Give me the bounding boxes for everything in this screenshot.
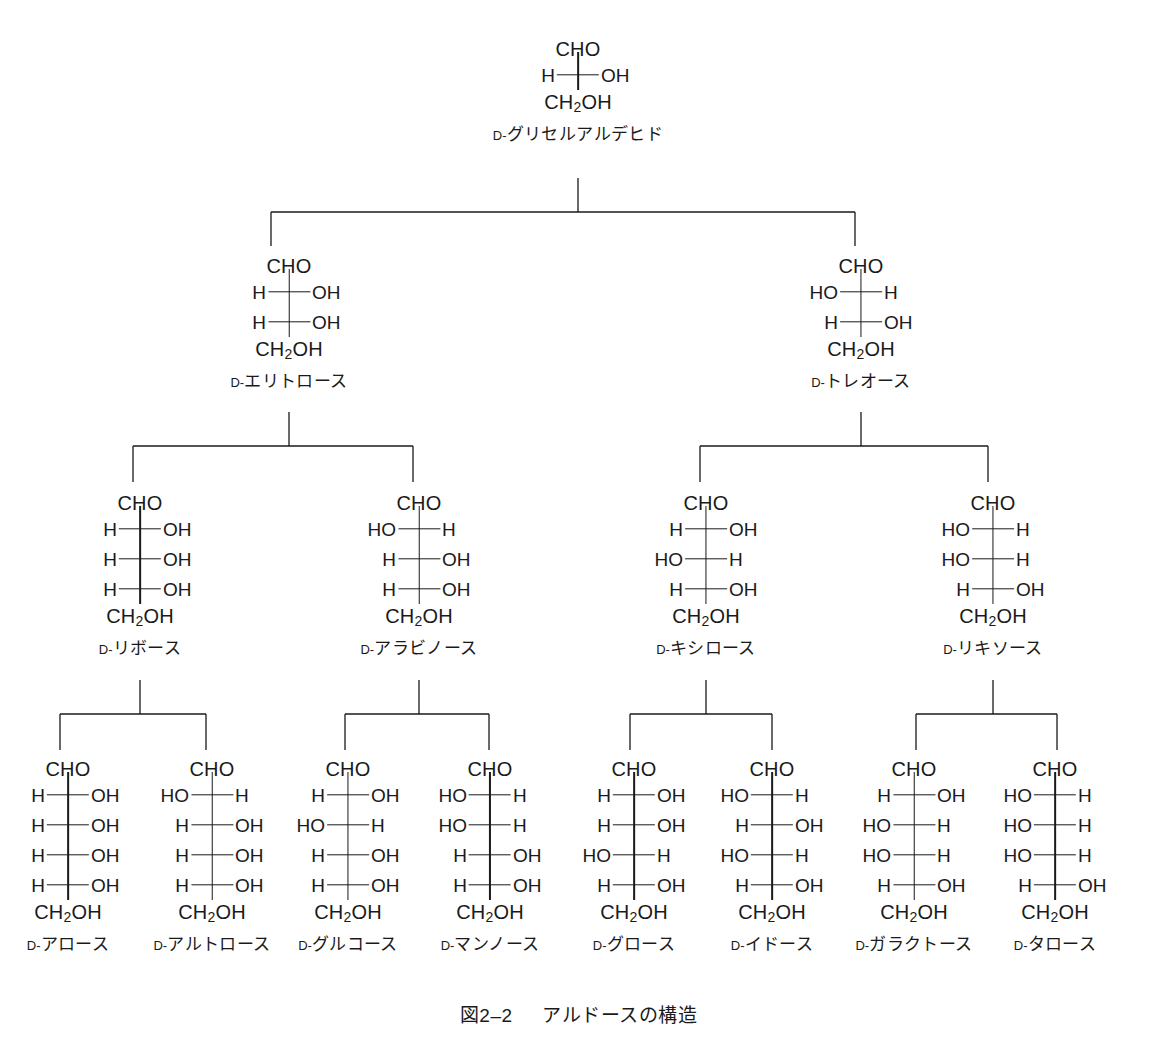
stereocenter-list: HOHHOHHOH xyxy=(384,514,454,604)
substituent-left-hydroxyl: HO xyxy=(719,846,752,865)
substituent-left-hydrogen: H xyxy=(1016,876,1034,895)
substituent-left-hydrogen: H xyxy=(875,786,893,805)
ch-text: CH xyxy=(672,605,701,627)
subscript-two: 2 xyxy=(414,613,422,629)
ch-text: CH xyxy=(34,901,63,923)
stereocenter-list: HOH xyxy=(543,60,613,90)
sugar-name-text: アルトロース xyxy=(167,935,270,954)
carbon-backbone-line xyxy=(211,772,212,908)
oh-text: OH xyxy=(292,338,322,360)
primary-alcohol-group-label: CH2OH xyxy=(254,337,324,366)
sugar-name-text: グリセルアルデヒド xyxy=(507,125,664,144)
molecule-talose: CHOHOHHOHHOHHOHCH2OHD-タロース xyxy=(1014,758,1096,956)
substituent-right-hydroxyl: OH xyxy=(935,786,968,805)
stereocenter-list: HOHHOHHOHHOH xyxy=(33,780,103,900)
substituent-right-hydrogen: H xyxy=(1014,520,1032,539)
configuration-prefix: D- xyxy=(855,938,869,953)
molecule-threose: CHOHOHHOHCH2OHD-トレオース xyxy=(811,255,911,393)
substituent-right-hydrogen: H xyxy=(233,786,251,805)
primary-alcohol-group-label: CH2OH xyxy=(177,900,247,929)
substituent-left-hydroxyl: HO xyxy=(1002,846,1035,865)
stereocenter-list: HOHHOHHOHHOH xyxy=(455,780,525,900)
substituent-right-hydrogen: H xyxy=(793,786,811,805)
ch-text: CH xyxy=(178,901,207,923)
primary-alcohol-group-label: CH2OH xyxy=(313,900,383,929)
substituent-left-hydrogen: H xyxy=(309,846,327,865)
substituent-left-hydroxyl: HO xyxy=(861,816,894,835)
substituent-right-hydrogen: H xyxy=(935,816,953,835)
substituent-left-hydrogen: H xyxy=(451,876,469,895)
ch-text: CH xyxy=(959,605,988,627)
substituent-right-hydroxyl: OH xyxy=(599,66,632,85)
substituent-right-hydroxyl: OH xyxy=(233,846,266,865)
fischer-projection: CHOHOHHOHHOHCH2OH xyxy=(384,492,454,633)
caption-number: 図2–2 xyxy=(460,1005,513,1026)
molecule-altrose: CHOHOHHOHHOHHOHCH2OHD-アルトロース xyxy=(153,758,270,956)
ch-text: CH xyxy=(106,605,135,627)
substituent-left-hydrogen: H xyxy=(954,580,972,599)
carbon-backbone-line xyxy=(1054,772,1055,908)
substituent-right-hydrogen: H xyxy=(882,283,900,302)
substituent-right-hydroxyl: OH xyxy=(440,580,473,599)
fischer-projection: CHOHOHHOHHOHHOHCH2OH xyxy=(177,758,247,929)
substituent-left-hydroxyl: HO xyxy=(295,816,328,835)
primary-alcohol-group-label: CH2OH xyxy=(671,604,741,633)
substituent-left-hydrogen: H xyxy=(875,876,893,895)
substituent-right-hydrogen: H xyxy=(1076,786,1094,805)
fischer-projection: CHOHOHHOHHOHCH2OH xyxy=(958,492,1028,633)
molecule-ribose: CHOHOHHOHHOHCH2OHD-リボース xyxy=(99,492,181,660)
subscript-two: 2 xyxy=(1050,909,1058,925)
substituent-right-hydroxyl: OH xyxy=(233,876,266,895)
configuration-prefix: D- xyxy=(360,642,374,657)
fischer-projection: CHOHOHHOHHOHHOHCH2OH xyxy=(1020,758,1090,929)
substituent-left-hydroxyl: HO xyxy=(159,786,192,805)
substituent-right-hydrogen: H xyxy=(935,846,953,865)
sugar-name-arabinose: D-アラビノース xyxy=(360,639,477,660)
carbon-backbone-line xyxy=(489,772,490,908)
oh-text: OH xyxy=(71,901,101,923)
oh-text: OH xyxy=(493,901,523,923)
sugar-name-allose: D-アロース xyxy=(27,935,109,956)
configuration-prefix: D- xyxy=(99,642,113,657)
substituent-right-hydroxyl: OH xyxy=(310,283,343,302)
molecule-allose: CHOHOHHOHHOHHOHCH2OHD-アロース xyxy=(27,758,109,956)
substituent-right-hydroxyl: OH xyxy=(1014,580,1047,599)
ch-text: CH xyxy=(544,91,573,113)
sugar-name-lyxose: D-リキソース xyxy=(943,639,1043,660)
fischer-projection: CHOHOHHOHHOHHOHCH2OH xyxy=(455,758,525,929)
stereocenter-list: HOHHOHHOHHOH xyxy=(1020,780,1090,900)
primary-alcohol-group-label: CH2OH xyxy=(958,604,1028,633)
ch-text: CH xyxy=(880,901,909,923)
substituent-left-hydrogen: H xyxy=(173,876,191,895)
configuration-prefix: D- xyxy=(731,938,745,953)
substituent-left-hydrogen: H xyxy=(733,876,751,895)
configuration-prefix: D- xyxy=(230,375,244,390)
stereocenter-list: HOHHOH xyxy=(254,277,324,337)
substituent-left-hydrogen: H xyxy=(667,580,685,599)
oh-text: OH xyxy=(1058,901,1088,923)
sugar-name-mannose: D-マンノース xyxy=(441,935,540,956)
substituent-left-hydrogen: H xyxy=(173,816,191,835)
configuration-prefix: D- xyxy=(943,642,957,657)
substituent-right-hydroxyl: OH xyxy=(935,876,968,895)
sugar-name-text: リボース xyxy=(113,639,182,658)
substituent-left-hydrogen: H xyxy=(595,876,613,895)
configuration-prefix: D- xyxy=(493,128,507,143)
primary-alcohol-group-label: CH2OH xyxy=(1020,900,1090,929)
oh-text: OH xyxy=(864,338,894,360)
substituent-left-hydrogen: H xyxy=(733,816,751,835)
fischer-projection: CHOHOHHOHHOHHOHCH2OH xyxy=(599,758,669,929)
fischer-projection: CHOHOHHOHHOHCH2OH xyxy=(671,492,741,633)
substituent-right-hydrogen: H xyxy=(369,816,387,835)
figure-caption: 図2–2 アルドースの構造 xyxy=(0,1000,1157,1027)
substituent-right-hydroxyl: OH xyxy=(511,876,544,895)
primary-alcohol-group-label: CH2OH xyxy=(543,90,613,119)
molecule-gulose: CHOHOHHOHHOHHOHCH2OHD-グロース xyxy=(593,758,675,956)
subscript-two: 2 xyxy=(63,909,71,925)
substituent-right-hydroxyl: OH xyxy=(793,876,826,895)
substituent-left-hydrogen: H xyxy=(101,520,119,539)
stereocenter-list: HOHHOHHOH xyxy=(105,514,175,604)
carbon-backbone-line xyxy=(288,269,289,345)
substituent-right-hydrogen: H xyxy=(511,816,529,835)
stereocenter-list: HOHHOHHOHHOH xyxy=(177,780,247,900)
